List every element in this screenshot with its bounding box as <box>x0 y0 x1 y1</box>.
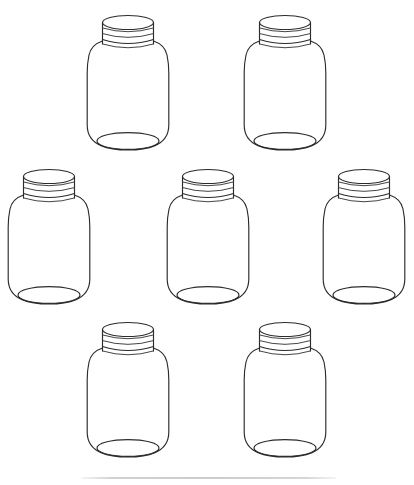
jar-6[interactable] <box>87 323 169 458</box>
jar-1[interactable] <box>87 16 169 151</box>
jar-5[interactable] <box>323 170 405 305</box>
jar-4[interactable] <box>167 170 249 305</box>
drawing-canvas <box>0 0 414 485</box>
jar-illustration-layer <box>0 0 414 485</box>
jar-7[interactable] <box>244 323 326 458</box>
jar-2[interactable] <box>244 16 326 151</box>
footer-divider-rule <box>82 477 336 479</box>
jar-3[interactable] <box>8 170 90 305</box>
